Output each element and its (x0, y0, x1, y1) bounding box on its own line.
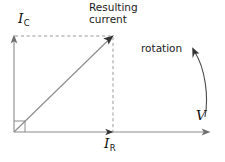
rotation-annotation: rotation (141, 43, 182, 55)
resultant-annotation: Resulting current (89, 2, 138, 26)
vertical-axis-label: IC (18, 11, 29, 26)
ir-marker-label: IR (104, 136, 115, 151)
resultant-annotation-line1: Resulting (89, 2, 138, 14)
vertical-axis-label-symbol: I (18, 10, 23, 26)
horizontal-axis-label: V (196, 108, 206, 123)
ir-marker-label-symbol: I (104, 135, 109, 151)
rotation-arrowhead-icon (192, 47, 199, 58)
ir-marker-label-subscript: R (110, 143, 116, 153)
phasor-diagram: IC IR V Resulting current rotation (0, 0, 225, 162)
vertical-axis-label-subscript: C (24, 18, 30, 28)
resultant-phasor-line (14, 40, 109, 133)
horizontal-axis-label-symbol: V (196, 107, 206, 123)
resultant-annotation-line2: current (89, 14, 138, 26)
